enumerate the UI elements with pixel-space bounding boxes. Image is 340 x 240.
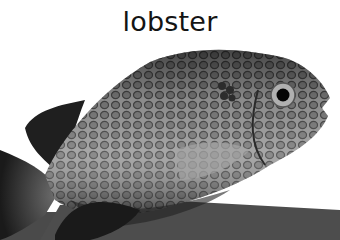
fish-eye: [271, 83, 295, 107]
fish-photo: [0, 0, 340, 240]
